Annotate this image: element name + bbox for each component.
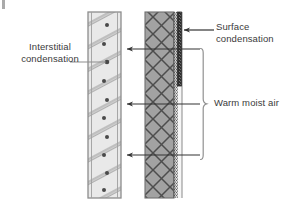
brace-path [201, 49, 207, 160]
warm-moist-air-label: Warm moist air [214, 97, 279, 109]
warm-moist-air-brace [201, 49, 207, 160]
left-wall-section [70, 12, 121, 198]
interstitial-condensation-label: Interstitial condensation [10, 41, 90, 64]
droplet [102, 42, 106, 46]
right-wall-section [145, 12, 182, 198]
right-wall-crosshatch-fill [145, 12, 174, 198]
scan-artifact [2, 0, 5, 9]
droplet [102, 116, 106, 120]
droplet [102, 153, 106, 157]
droplet [105, 23, 109, 27]
surface-condensation-label: Surface condensation [216, 21, 274, 44]
droplet [102, 79, 106, 83]
droplet [105, 171, 109, 175]
droplet [102, 188, 106, 192]
left-wall-hatch-fill [88, 12, 121, 198]
droplet [105, 98, 109, 102]
droplet [105, 135, 109, 139]
